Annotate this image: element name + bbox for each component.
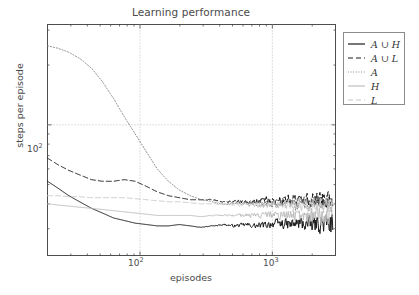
- legend-item-4: L: [344, 93, 404, 107]
- legend-swatch-solid-dark: [347, 38, 366, 50]
- legend-label-2: A: [371, 67, 378, 78]
- legend-item-1: A ∪ L: [344, 51, 404, 65]
- legend: A ∪ H A ∪ L A H L: [343, 32, 405, 105]
- legend-label-0: A ∪ H: [371, 39, 400, 50]
- legend-label-1: A ∪ L: [371, 53, 398, 64]
- legend-label-3: H: [371, 81, 379, 92]
- legend-item-3: H: [344, 79, 404, 93]
- y-tick-label-100: 102: [27, 144, 43, 154]
- legend-swatch-dashed-dark: [347, 52, 366, 64]
- legend-item-0: A ∪ H: [344, 37, 404, 51]
- x-tick-label-100: 102: [128, 258, 144, 268]
- y-axis-label: steps per episode: [14, 46, 25, 166]
- x-tick-label-1000: 103: [263, 258, 279, 268]
- legend-swatch-dashed-lightgray: [347, 94, 366, 106]
- legend-swatch-dotted-gray: [347, 66, 366, 78]
- legend-swatch-solid-lightgray: [347, 80, 366, 92]
- x-axis-label: episodes: [47, 272, 335, 283]
- legend-label-4: L: [371, 95, 377, 106]
- legend-item-2: A: [344, 65, 404, 79]
- chart-figure: Learning performance steps per episode e…: [0, 0, 419, 295]
